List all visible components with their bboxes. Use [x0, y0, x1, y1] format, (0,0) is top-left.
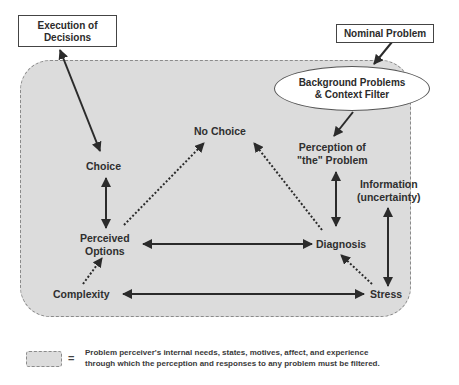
- arrow-filter-perception: [334, 112, 353, 136]
- legend-text: Problem perceiver's internal needs, stat…: [85, 348, 380, 369]
- legend-line1: Problem perceiver's internal needs, stat…: [85, 348, 380, 359]
- nominal-problem-label: Nominal Problem: [344, 28, 426, 39]
- node-stress: Stress: [370, 288, 402, 301]
- filter-line1: Background Problems: [275, 77, 429, 89]
- arrow-execution-choice: [60, 50, 100, 151]
- arrow-nominal-filter: [374, 42, 392, 64]
- perceived-options-line2: Options: [80, 245, 130, 258]
- execution-of-decisions-box: Execution of Decisions: [18, 15, 117, 47]
- complexity-label: Complexity: [53, 288, 110, 300]
- diagnosis-label: Diagnosis: [316, 238, 366, 250]
- no-choice-label: No Choice: [194, 125, 246, 137]
- information-line1: Information: [357, 178, 421, 191]
- node-complexity: Complexity: [53, 288, 110, 301]
- arrow-complexity-options: [83, 258, 102, 284]
- choice-label: Choice: [86, 160, 121, 172]
- legend-line2: through which the perception and respons…: [85, 359, 380, 370]
- filter-line2: & Context Filter: [275, 89, 429, 101]
- node-no-choice: No Choice: [194, 125, 246, 138]
- execution-line2: Decisions: [19, 32, 116, 44]
- node-information: Information (uncertainty): [357, 178, 421, 204]
- node-diagnosis: Diagnosis: [316, 238, 366, 251]
- background-context-filter: Background Problems & Context Filter: [274, 66, 430, 111]
- node-perceived-options: Perceived Options: [80, 232, 130, 258]
- perceived-options-line1: Perceived: [80, 232, 130, 245]
- perception-line2: "the" Problem: [297, 154, 368, 167]
- node-choice: Choice: [86, 160, 121, 173]
- nominal-problem-box: Nominal Problem: [336, 24, 434, 43]
- arrow-options-nochoice: [124, 143, 204, 225]
- legend-equals: =: [68, 352, 74, 364]
- execution-line1: Execution of: [19, 20, 116, 32]
- information-line2: (uncertainty): [357, 191, 421, 204]
- stress-label: Stress: [370, 288, 402, 300]
- legend-swatch: [26, 351, 62, 367]
- node-perception: Perception of "the" Problem: [297, 141, 368, 167]
- arrow-stress-diagnosis: [341, 255, 372, 284]
- perception-line1: Perception of: [297, 141, 368, 154]
